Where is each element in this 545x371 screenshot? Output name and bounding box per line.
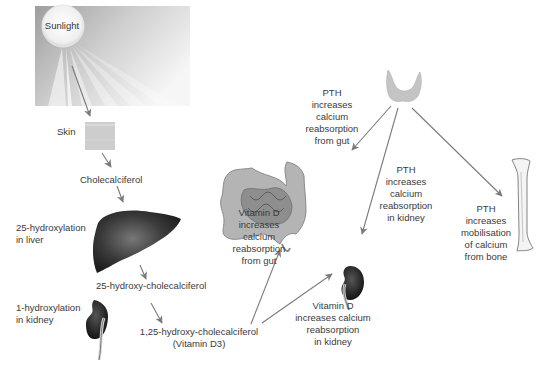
sunlight-label: Sunlight	[42, 20, 82, 31]
kidney-step-label: 1-hydroxylation in kidney	[16, 302, 80, 326]
bone-icon	[512, 159, 533, 251]
pth-gut-label: PTH increases calcium reabsorption from …	[297, 87, 367, 147]
vitamin-d-kidney-label: Vitamin D increases calcium reabsorption…	[285, 300, 381, 348]
liver-icon	[93, 210, 181, 273]
kidney-icon	[86, 300, 108, 360]
vitamin-d-gut-label: Vitamin D increases calcium reabsorption…	[226, 207, 292, 267]
diagram-canvas: Sunlight Skin Cholecalciferol 25-hydroxy…	[0, 0, 545, 371]
hydroxy-cholecalciferol-label: 25-hydroxy-cholecalciferol	[96, 280, 206, 292]
liver-step-label: 25-hydroxylation in liver	[16, 222, 86, 246]
pth-bone-label: PTH increases mobilisation of calcium fr…	[458, 203, 514, 263]
vitamin-d3-label: 1,25-hydroxy-cholecalciferol (Vitamin D3…	[130, 326, 268, 350]
thyroid-icon	[387, 70, 422, 101]
skin-label: Skin	[57, 126, 75, 138]
pth-kidney-label: PTH increases calcium reabsorption in ki…	[374, 164, 438, 224]
cholecalciferol-label: Cholecalciferol	[80, 174, 142, 186]
skin-icon	[85, 122, 115, 150]
